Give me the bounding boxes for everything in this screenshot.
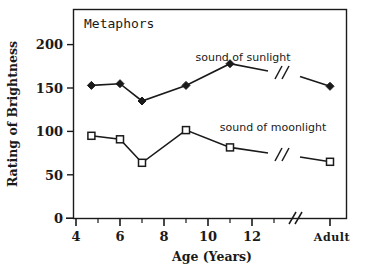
series-label-sunlight: sound of sunlight	[195, 51, 291, 64]
chart-svg: 200 150 100 50 0 Rating of Brightness	[0, 0, 365, 270]
x-tick-label-12: 12	[243, 229, 261, 244]
marker-sunlight-age-4-7	[87, 81, 95, 89]
series-label-moonlight: sound of moonlight	[220, 121, 327, 134]
plot-frame	[74, 10, 347, 219]
marker-moonlight-age-11	[227, 144, 234, 151]
x-tick-label-4: 4	[71, 229, 80, 244]
series-sound-of-moonlight: sound of moonlight	[88, 121, 334, 166]
marker-sunlight-adult	[326, 82, 334, 90]
series-sound-of-sunlight: sound of sunlight	[87, 51, 334, 105]
series-sunlight-line-adult	[300, 76, 330, 86]
x-tick-label-8: 8	[159, 229, 168, 244]
marker-moonlight-adult	[327, 158, 334, 165]
y-tick-label-50: 50	[45, 168, 63, 183]
chart-figure: 200 150 100 50 0 Rating of Brightness	[0, 0, 365, 270]
series-moonlight-line-main	[91, 130, 268, 163]
x-tick-label-10: 10	[199, 229, 217, 244]
y-tick-label-150: 150	[36, 81, 63, 96]
series-moonlight-line-adult	[300, 157, 330, 162]
series-sunlight-break-mark	[275, 66, 289, 79]
marker-moonlight-age-7	[139, 159, 146, 166]
y-axis-title: Rating of Brightness	[5, 41, 20, 187]
marker-moonlight-age-4-7	[88, 132, 95, 139]
series-sunlight-markers	[87, 60, 334, 105]
y-tick-label-200: 200	[36, 37, 63, 52]
marker-moonlight-age-9	[183, 127, 190, 134]
y-tick-label-100: 100	[36, 124, 63, 139]
y-axis: 200 150 100 50 0	[36, 37, 74, 226]
x-axis-title: Age (Years)	[171, 249, 252, 264]
y-tick-label-0: 0	[54, 211, 63, 226]
series-moonlight-break-mark	[275, 148, 289, 161]
marker-moonlight-age-6	[117, 136, 124, 143]
x-tick-label-6: 6	[115, 229, 124, 244]
x-tick-label-adult: Adult	[313, 231, 351, 244]
plot-title: Metaphors	[84, 16, 154, 31]
x-axis: 4 6 8 10 12 Adult	[71, 212, 350, 244]
marker-sunlight-age-9	[182, 81, 190, 89]
